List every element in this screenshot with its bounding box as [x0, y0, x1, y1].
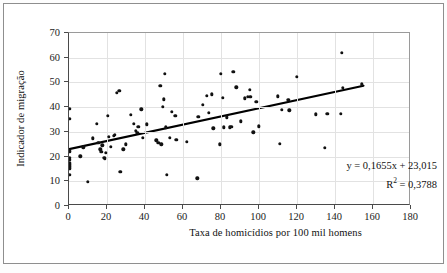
data-point: [164, 125, 167, 128]
r-squared-value: = 0,3788: [397, 179, 437, 190]
data-point: [119, 170, 122, 173]
x-axis-tick: [106, 205, 107, 209]
data-point: [136, 131, 139, 134]
y-axis-tick: [64, 57, 68, 58]
data-point: [158, 84, 161, 87]
y-axis-tick: [64, 205, 68, 206]
x-axis-tick: [182, 205, 183, 209]
y-axis-tick-label: 70: [34, 27, 60, 38]
x-axis-tick-label: 40: [139, 211, 150, 222]
x-axis-tick-label: 160: [364, 211, 380, 222]
x-axis-tick-label: 100: [250, 211, 266, 222]
data-point: [132, 122, 135, 125]
y-axis-tick: [64, 106, 68, 107]
data-point: [280, 108, 283, 111]
x-axis-tick: [68, 205, 69, 209]
data-point: [175, 138, 178, 141]
regression-equation: y = 0,1655x + 23,015: [346, 158, 437, 173]
data-point: [341, 86, 344, 89]
gridline-horizontal: [69, 82, 409, 83]
data-point: [82, 145, 85, 148]
data-point: [100, 150, 103, 153]
y-axis-tick-label: 30: [34, 125, 60, 136]
data-point: [68, 173, 71, 176]
x-axis-tick-label: 140: [326, 211, 342, 222]
y-axis-tick: [64, 156, 68, 157]
data-point: [234, 86, 237, 89]
data-point: [205, 94, 208, 97]
figure-container: Indicador de migração y = 0,1655x + 23,0…: [0, 0, 447, 273]
x-axis-tick-label: 180: [402, 211, 418, 222]
gridline-horizontal: [69, 132, 409, 133]
data-point: [219, 72, 222, 75]
data-point: [295, 75, 298, 78]
data-point: [101, 143, 104, 146]
x-axis-tick-label: 0: [65, 211, 70, 222]
data-point: [340, 51, 343, 54]
data-point: [109, 145, 112, 148]
data-point: [121, 148, 124, 151]
y-axis-tick: [64, 131, 68, 132]
x-axis-tick: [258, 205, 259, 209]
y-axis-tick: [64, 32, 68, 33]
y-axis-tick-label: 20: [34, 150, 60, 161]
data-point: [201, 103, 204, 106]
gridline-horizontal: [69, 58, 409, 59]
y-axis-tick-label: 60: [34, 51, 60, 62]
data-point: [174, 114, 177, 117]
data-point: [129, 113, 132, 116]
data-point: [68, 107, 71, 110]
data-point: [278, 142, 281, 145]
regression-annotation: y = 0,1655x + 23,015 R2 = 0,3788: [346, 158, 437, 192]
data-point: [124, 143, 127, 146]
data-point: [159, 143, 162, 146]
x-axis-tick-label: 120: [288, 211, 304, 222]
data-point: [106, 114, 109, 117]
data-point: [287, 98, 290, 101]
data-point: [139, 107, 142, 110]
data-point: [221, 96, 224, 99]
data-point: [196, 115, 199, 118]
data-point: [165, 173, 168, 176]
data-point: [185, 140, 188, 143]
data-point: [339, 112, 342, 115]
x-axis-tick: [296, 205, 297, 209]
x-axis-tick: [334, 205, 335, 209]
y-axis-tick: [64, 180, 68, 181]
x-axis-title-text: Taxa de homicídios por 100 mil homens: [85, 227, 362, 238]
data-point: [68, 149, 71, 152]
data-point: [162, 98, 165, 101]
data-point: [113, 133, 116, 136]
y-axis-tick-label: 50: [34, 76, 60, 87]
data-point: [239, 120, 242, 123]
gridline-horizontal: [69, 107, 409, 108]
data-point: [145, 122, 148, 125]
data-point: [196, 177, 199, 180]
data-point: [314, 113, 317, 116]
data-point: [137, 125, 140, 128]
data-point: [252, 131, 255, 134]
data-point: [225, 116, 228, 119]
y-axis-tick-label: 10: [34, 175, 60, 186]
data-point: [326, 112, 329, 115]
x-axis-tick: [144, 205, 145, 209]
data-point: [276, 95, 279, 98]
y-axis-tick-label: 40: [34, 101, 60, 112]
r-squared-line: R2 = 0,3788: [346, 173, 437, 192]
data-point: [232, 70, 235, 73]
x-axis-title: Taxa de homicídios por 100 mil homens: [0, 227, 447, 238]
data-point: [360, 83, 363, 86]
y-axis-tick-label: 0: [34, 200, 60, 211]
data-point: [163, 72, 166, 75]
data-point: [107, 135, 110, 138]
data-point: [95, 122, 98, 125]
y-axis-title-text: Indicador de migração: [15, 70, 26, 167]
data-point: [118, 89, 121, 92]
x-axis-tick: [410, 205, 411, 209]
data-point: [288, 109, 291, 112]
x-axis-tick: [372, 205, 373, 209]
data-point: [170, 110, 173, 113]
data-point: [222, 126, 225, 129]
data-point: [257, 125, 260, 128]
x-axis-tick-label: 80: [215, 211, 226, 222]
